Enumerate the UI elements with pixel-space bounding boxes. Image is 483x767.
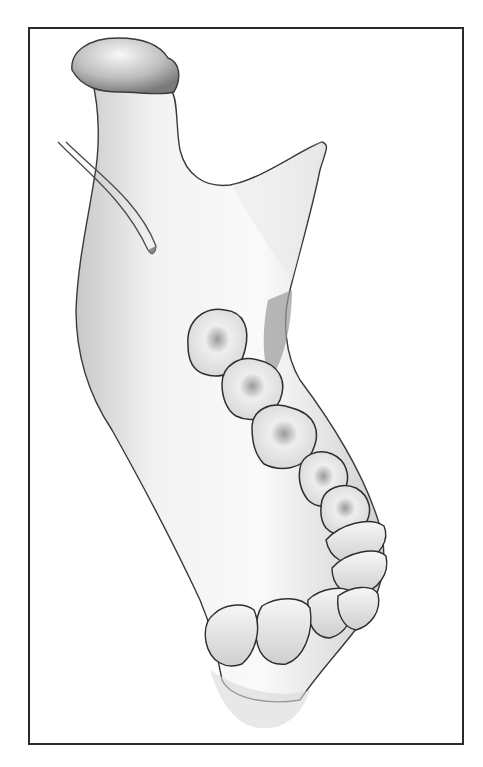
condylar-head <box>72 38 179 94</box>
mandible-illustration <box>0 0 483 767</box>
